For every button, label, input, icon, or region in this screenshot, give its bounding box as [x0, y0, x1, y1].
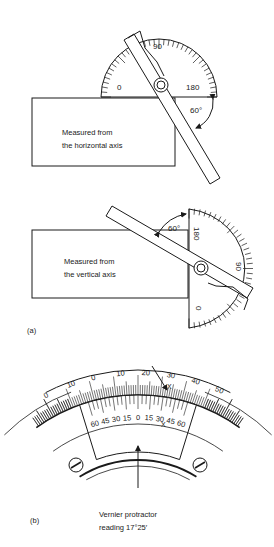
scale-label-0: 0: [194, 306, 203, 311]
coincidence-mark-vernier: X: [161, 421, 166, 428]
svg-text:40: 40: [190, 376, 201, 387]
scale-label-90: 90: [153, 42, 162, 51]
scale-label-90: 90: [234, 262, 243, 271]
svg-text:15: 15: [144, 413, 153, 423]
svg-text:20: 20: [141, 368, 150, 377]
scale-label-0: 0: [117, 83, 122, 92]
coincidence-mark-main: X: [167, 383, 172, 390]
svg-text:0: 0: [42, 390, 50, 400]
figure-label-b: (b): [30, 516, 40, 525]
svg-text:10: 10: [116, 368, 125, 378]
svg-text:15: 15: [123, 413, 132, 423]
caption-line-1: Vernier protractor: [99, 510, 157, 519]
scale-label-180: 180: [192, 227, 201, 241]
protractor-horizontal: 0 90 180 60° Measured from the horizonta…: [32, 31, 220, 184]
protractor-vertical: 180 90 0 60° Measured from the vertical …: [27, 206, 253, 335]
figure-label-a: (a): [27, 326, 37, 335]
caption-line-2: the vertical axis: [64, 270, 116, 279]
angle-label: 60°: [190, 106, 202, 115]
vernier-protractor: 0100102030405060453015015304560 X X (b) …: [4, 366, 271, 532]
scale-label-180: 180: [186, 83, 200, 92]
svg-text:30: 30: [111, 414, 121, 424]
caption-line-2: reading 17°25′: [99, 523, 148, 532]
angle-label: 60°: [168, 224, 180, 233]
svg-text:0: 0: [136, 413, 140, 422]
caption-line-1: Measured from: [62, 128, 112, 137]
protractor-diagram: 0 90 180 60° Measured from the horizonta…: [0, 0, 274, 547]
svg-text:30: 30: [166, 370, 176, 380]
caption-line-2: the horizontal axis: [62, 141, 123, 150]
caption-line-1: Measured from: [64, 257, 114, 266]
pivot-inner: [197, 264, 205, 272]
pivot-inner: [157, 81, 165, 89]
